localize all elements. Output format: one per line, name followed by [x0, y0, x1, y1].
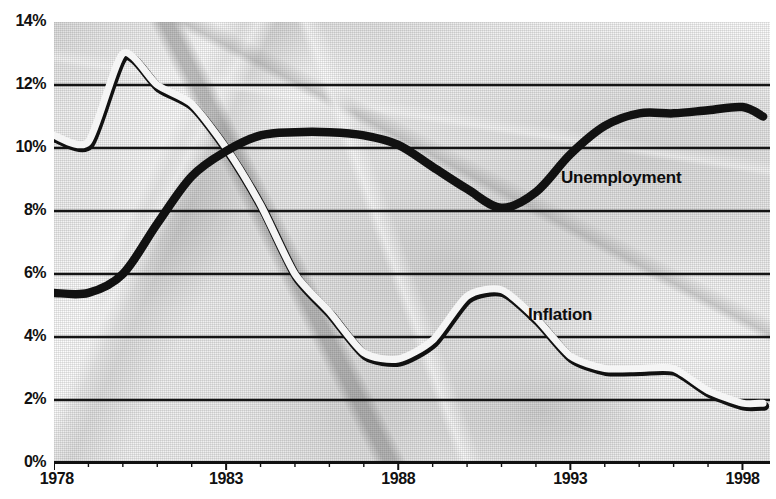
y-axis-tick-label: 2% — [0, 390, 46, 408]
y-axis-tick-label: 14% — [0, 12, 46, 30]
y-axis-tick-label: 10% — [0, 138, 46, 156]
x-axis-tick-label: 1978 — [40, 470, 74, 488]
series-layer — [54, 53, 765, 407]
plot-area — [54, 22, 770, 463]
y-axis-tick-label: 0% — [0, 453, 46, 471]
unemployment-line — [54, 107, 763, 294]
y-axis-tick-label: 8% — [0, 201, 46, 219]
y-axis-tick-label: 4% — [0, 327, 46, 345]
y-axis-tick-label: 6% — [0, 264, 46, 282]
x-axis-tick-label: 1988 — [381, 470, 415, 488]
x-axis-tick-label: 1983 — [209, 470, 243, 488]
x-axis-tick-label: 1993 — [553, 470, 587, 488]
inflation-line — [54, 53, 763, 404]
series-label-inflation: Inflation — [528, 305, 592, 325]
x-axis-tick-label: 1998 — [725, 470, 759, 488]
y-axis-tick-label: 12% — [0, 75, 46, 93]
chart-container: 0%2%4%6%8%10%12%14% 19781983198819931998… — [0, 0, 776, 499]
series-label-unemployment: Unemployment — [561, 168, 681, 188]
plot-svg — [54, 22, 770, 463]
